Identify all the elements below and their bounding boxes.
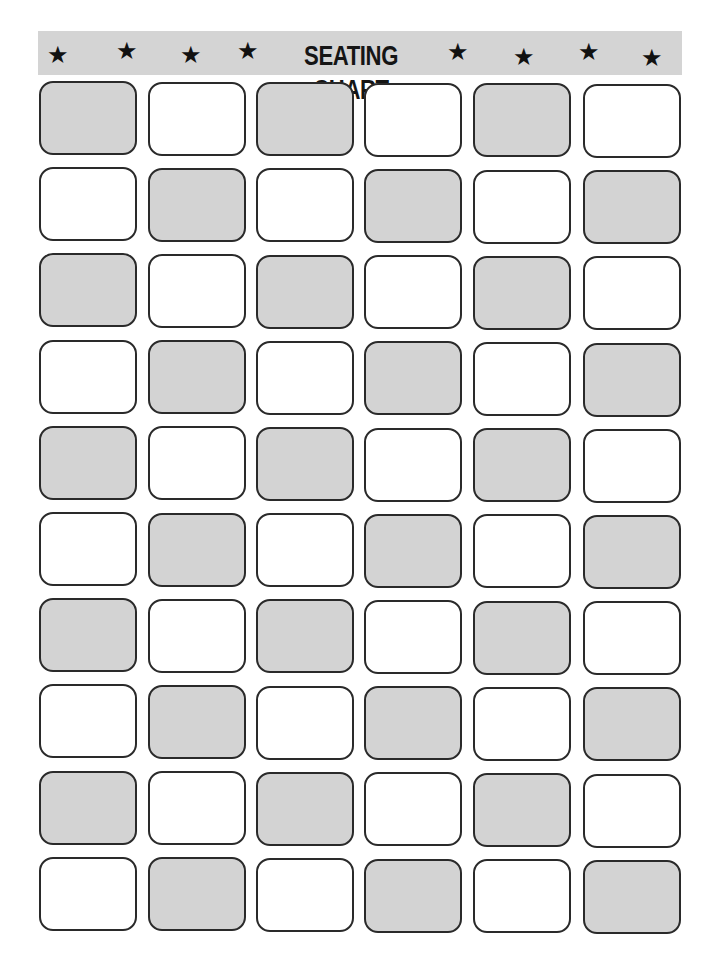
seat-box [364, 428, 462, 502]
seat-box [473, 773, 571, 847]
seat-box [473, 687, 571, 761]
seat-box [148, 685, 246, 759]
seat-box [148, 340, 246, 414]
seat-box [473, 83, 571, 157]
star-icon: ★ [180, 43, 202, 67]
seat-box [148, 599, 246, 673]
star-icon: ★ [513, 45, 535, 69]
star-icon: ★ [47, 43, 69, 67]
seat-box [256, 599, 354, 673]
seat-box [473, 859, 571, 933]
seat-box [39, 81, 137, 155]
star-icon: ★ [116, 39, 138, 63]
seat-box [148, 254, 246, 328]
seat-box [39, 771, 137, 845]
seat-box [583, 170, 681, 244]
seat-box [583, 256, 681, 330]
seat-box [364, 255, 462, 329]
seat-box [364, 772, 462, 846]
seat-box [256, 82, 354, 156]
seat-box [364, 514, 462, 588]
seat-box [148, 771, 246, 845]
seat-box [364, 686, 462, 760]
seat-box [256, 341, 354, 415]
seat-box [148, 82, 246, 156]
seat-box [39, 340, 137, 414]
seat-box [39, 512, 137, 586]
seat-box [256, 427, 354, 501]
seat-box [583, 343, 681, 417]
seat-box [364, 83, 462, 157]
seat-box [256, 686, 354, 760]
seat-box [39, 167, 137, 241]
seat-box [364, 859, 462, 933]
star-icon: ★ [237, 39, 259, 63]
seat-box [148, 857, 246, 931]
seat-box [364, 341, 462, 415]
star-icon: ★ [578, 40, 600, 64]
seat-box [148, 168, 246, 242]
seat-box [473, 514, 571, 588]
seat-box [583, 774, 681, 848]
seat-box [39, 426, 137, 500]
seat-box [364, 600, 462, 674]
seat-box [364, 169, 462, 243]
seat-box [583, 860, 681, 934]
star-icon: ★ [447, 40, 469, 64]
seat-box [473, 170, 571, 244]
seat-box [39, 684, 137, 758]
seat-box [39, 253, 137, 327]
seat-box [256, 858, 354, 932]
seat-box [148, 426, 246, 500]
seat-box [473, 428, 571, 502]
seat-box [39, 857, 137, 931]
star-icon: ★ [641, 46, 663, 70]
seat-box [473, 256, 571, 330]
seat-box [583, 84, 681, 158]
seat-box [583, 429, 681, 503]
seat-box [256, 772, 354, 846]
seat-box [473, 342, 571, 416]
seat-box [473, 601, 571, 675]
seat-box [256, 513, 354, 587]
seat-box [256, 168, 354, 242]
seat-box [148, 513, 246, 587]
seat-box [256, 255, 354, 329]
seat-box [39, 598, 137, 672]
seat-box [583, 601, 681, 675]
seat-box [583, 687, 681, 761]
seat-box [583, 515, 681, 589]
